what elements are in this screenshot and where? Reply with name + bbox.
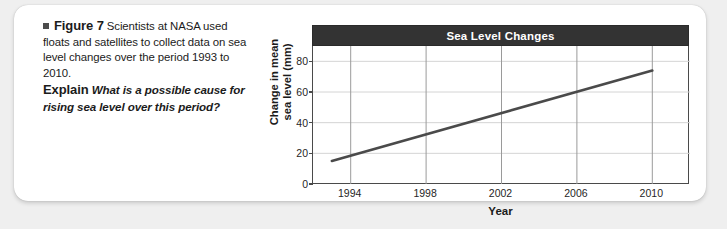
y-axis-tick-mark [309,183,313,185]
chart-title-bar: Sea Level Changes [312,25,689,46]
y-axis-tick-label: 20 [296,147,308,159]
y-axis-tick-label: 40 [296,117,308,129]
sea-level-chart: Sea Level Changes Change in mean sea lev… [250,17,710,222]
y-axis-tick-label: 60 [296,86,308,98]
x-axis-tick-label: 2010 [640,187,663,199]
explain-label: Explain [43,82,89,97]
chart-title: Sea Level Changes [446,30,554,42]
x-axis-tick-labels: 19941998200220062010 [312,187,689,201]
y-axis-tick-mark [309,122,313,124]
y-axis-tick-mark [309,153,313,155]
figure-number-label: Figure 7 [54,18,104,33]
y-axis-tick-label: 0 [302,178,308,190]
x-axis-tick-label: 2006 [564,187,587,199]
y-axis-tick-mark [309,61,313,63]
y-axis-tick-labels: 020406080 [282,46,308,184]
x-axis-tick-label: 1998 [413,187,436,199]
series-layer [313,46,690,184]
plot-area [312,46,689,184]
figure-card: Figure 7 Scientists at NASA used floats … [14,5,706,201]
sea-level-line [332,71,652,161]
x-axis-tick-label: 1994 [338,187,361,199]
explain-block: Explain What is a possible cause for ris… [43,82,248,115]
screenshot-root: Figure 7 Scientists at NASA used floats … [0,0,727,229]
y-axis-title-line1: Change in mean [268,26,281,138]
square-bullet-icon [43,23,49,29]
y-axis-tick-label: 80 [296,55,308,67]
x-axis-title: Year [312,205,689,217]
gridlines-vertical [351,46,653,184]
figure-caption: Figure 7 Scientists at NASA used floats … [43,18,248,116]
y-axis-tick-mark [309,91,313,93]
x-axis-tick-label: 2002 [489,187,512,199]
